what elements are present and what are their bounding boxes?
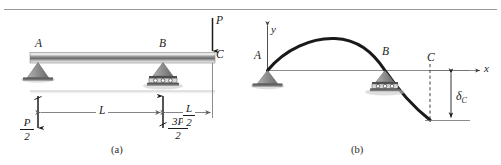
roller-support-B-b-topplate <box>372 82 398 84</box>
roller-support-B-b <box>365 71 405 96</box>
label-point-C-panel-b: C <box>427 52 435 64</box>
label-reaction-A-fraction: P 2 <box>20 117 34 142</box>
label-point-C-panel-a: C <box>216 49 224 61</box>
roller-circle-2 <box>161 79 165 83</box>
label-load-P: P <box>216 15 223 27</box>
pin-support-A <box>21 63 55 83</box>
roller-support-B <box>143 63 183 90</box>
delta-subscript: C <box>462 96 467 105</box>
label-point-B-panel-a: B <box>159 38 166 50</box>
reaction-B-arrow <box>160 96 167 128</box>
roller-circle-b-3 <box>390 84 394 88</box>
caption-panel-a: (a) <box>111 145 123 156</box>
label-point-A-panel-b: A <box>254 50 261 62</box>
label-dimension-L-over-2: L 2 <box>183 103 195 128</box>
beam-shadow <box>30 91 215 95</box>
roller-circle-b-1 <box>376 84 380 88</box>
reaction-B-denominator: 2 <box>168 130 188 142</box>
pin-support-A-base <box>23 78 53 81</box>
roller-circle-1 <box>154 79 158 83</box>
caption-panel-b: (b) <box>351 145 363 156</box>
reaction-A-numerator: P <box>20 117 34 129</box>
label-deflection-delta-C: δC <box>456 89 467 105</box>
label-point-B-panel-b: B <box>382 46 389 58</box>
roller-support-B-base <box>147 83 179 86</box>
dimension-BC-denominator: 2 <box>183 117 195 129</box>
reaction-A-arrow <box>35 96 42 128</box>
pin-support-A-b <box>251 71 285 90</box>
label-x-axis: x <box>484 63 489 74</box>
figure-svg <box>0 0 501 165</box>
reaction-A-denominator: 2 <box>20 131 34 143</box>
panel-b <box>251 26 481 121</box>
beam-rect <box>30 53 215 64</box>
roller-support-B-b-triangle <box>376 71 394 83</box>
pin-support-A-triangle <box>28 63 49 78</box>
roller-support-B-topplate <box>149 76 177 78</box>
label-y-axis: y <box>271 24 276 35</box>
pin-support-A-b-base <box>253 84 283 87</box>
engineering-figure: A B C P P 2 3P 2 L L 2 (a) y x A B C δC … <box>0 0 501 165</box>
roller-circle-3 <box>169 79 173 83</box>
beam-member <box>30 53 215 95</box>
roller-circle-b-2 <box>383 84 387 88</box>
elastic-curve <box>268 38 431 120</box>
roller-support-B-triangle <box>153 63 173 77</box>
dimension-BC-numerator: L <box>183 103 195 115</box>
roller-support-B-b-base <box>370 88 400 91</box>
label-dimension-L: L <box>96 105 108 117</box>
pin-support-A-b-triangle <box>258 71 278 84</box>
label-point-A-panel-a: A <box>35 38 42 50</box>
